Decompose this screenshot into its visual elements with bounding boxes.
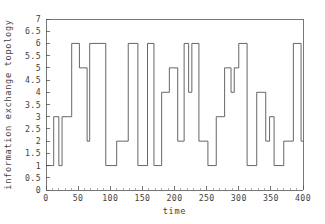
x-tick-label: 350 <box>263 193 279 203</box>
y-axis-title: information exchange topology <box>3 19 13 189</box>
x-tick-label: 200 <box>167 193 183 203</box>
y-tick-label: 3 <box>36 112 41 122</box>
y-tick-label: 5 <box>36 63 41 73</box>
y-tick-label: 0.5 <box>25 173 41 183</box>
y-tick-label: 0 <box>36 185 41 195</box>
axis-titles: timeinformation exchange topology <box>3 19 186 216</box>
y-tick-label: 4 <box>36 87 41 97</box>
axes-layer <box>46 19 303 190</box>
x-tick-label: 400 <box>295 193 311 203</box>
data-series-step-line <box>46 43 303 165</box>
y-tick-label: 1.5 <box>25 148 41 158</box>
x-tick-label: 0 <box>43 193 48 203</box>
y-tick-label: 6 <box>36 38 41 48</box>
y-tick-label: 2.5 <box>25 124 41 134</box>
data-series-layer <box>46 43 303 165</box>
y-tick-label: 6.5 <box>25 26 41 36</box>
x-tick-label: 300 <box>231 193 247 203</box>
chart-figure: 05010015020025030035040000.511.522.533.5… <box>0 0 325 224</box>
y-tick-label: 1 <box>36 161 41 171</box>
y-tick-label: 7 <box>36 14 41 24</box>
x-axis-title: time <box>163 206 187 216</box>
axis-frame <box>46 19 303 190</box>
y-tick-label: 5.5 <box>25 51 41 61</box>
y-tick-label: 3.5 <box>25 100 41 110</box>
y-tick-label: 2 <box>36 136 41 146</box>
x-tick-label: 250 <box>199 193 215 203</box>
x-tick-label: 100 <box>102 193 118 203</box>
y-tick-label: 4.5 <box>25 75 41 85</box>
axis-ticks <box>46 19 303 190</box>
step-chart: 05010015020025030035040000.511.522.533.5… <box>0 0 325 224</box>
axis-tick-labels: 05010015020025030035040000.511.522.533.5… <box>25 14 311 203</box>
x-tick-label: 50 <box>73 193 84 203</box>
x-tick-label: 150 <box>134 193 150 203</box>
